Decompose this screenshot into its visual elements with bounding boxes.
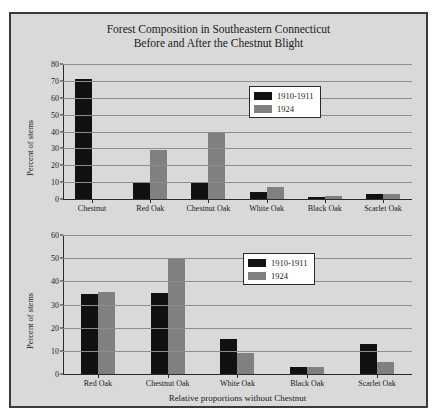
x-axis-tick-label: Black Oak — [272, 379, 342, 388]
y-axis-tick-label: 20 — [51, 161, 59, 170]
x-axis-tick-label: Scarlet Oak — [342, 379, 412, 388]
y-axis-tick-label: 30 — [51, 300, 59, 309]
bar-1910-1911 — [360, 344, 377, 374]
x-axis-tick-label: White Oak — [203, 379, 273, 388]
x-axis-tick-mark — [150, 199, 151, 203]
gridline — [63, 64, 412, 65]
y-axis-tick-label: 10 — [51, 346, 59, 355]
gridline — [63, 165, 412, 166]
x-axis-tick-label: Black Oak — [296, 204, 354, 213]
chart-panel-top: Percent of stems 01020304050607080 Chest… — [11, 58, 426, 216]
y-axis-tick-label: 40 — [51, 127, 59, 136]
bar-1924 — [150, 150, 167, 199]
y-axis-tick-label: 80 — [51, 60, 59, 69]
y-axis-tick-label: 30 — [51, 144, 59, 153]
y-axis-tick-mark — [60, 182, 63, 183]
y-axis-tick-mark — [60, 80, 63, 81]
legend-swatch-icon-1910-1911 — [254, 92, 272, 100]
x-axis-tick-mark — [92, 199, 93, 203]
legend-top: 1910-1911 1924 — [249, 86, 321, 118]
x-axis-top — [63, 199, 412, 200]
y-axis-tick-label: 70 — [51, 76, 59, 85]
gridline — [63, 182, 412, 183]
plot-area-bottom: 0102030405060 — [63, 235, 412, 375]
y-axis-label-top: Percent of stems — [25, 120, 35, 176]
x-axis-tick-label: Chestnut — [63, 204, 121, 213]
y-axis-tick-mark — [60, 374, 63, 375]
y-axis-tick-mark — [60, 131, 63, 132]
bar-1910-1911 — [133, 182, 150, 199]
x-axis-tick-mark — [267, 199, 268, 203]
x-axis-tick-mark — [377, 374, 378, 378]
gridline — [63, 98, 412, 99]
x-axis-tick-label: Scarlet Oak — [354, 204, 412, 213]
y-axis-tick-label: 60 — [51, 93, 59, 102]
legend-swatch-icon-1924 — [254, 105, 272, 113]
y-axis-tick-mark — [60, 258, 63, 259]
bar-1910-1911 — [81, 294, 98, 374]
x-axis-tick-mark — [98, 374, 99, 378]
y-axis-tick-label: 60 — [51, 231, 59, 240]
legend-item-1924: 1924 — [254, 103, 314, 114]
legend-label-1910-1911: 1910-1911 — [277, 91, 314, 101]
bar-1910-1911 — [191, 182, 208, 199]
bar-1924 — [267, 187, 284, 199]
plot-area-top: 01020304050607080 — [63, 64, 412, 200]
x-axis-tick-mark — [307, 374, 308, 378]
y-axis-tick-label: 50 — [51, 110, 59, 119]
x-axis-tick-label: White Oak — [238, 204, 296, 213]
chart-title-line-2: Before and After the Chestnut Blight — [11, 36, 426, 50]
y-axis-tick-mark — [60, 165, 63, 166]
chart-title: Forest Composition in Southeastern Conne… — [11, 22, 426, 50]
x-axis-tick-mark — [237, 374, 238, 378]
legend-label-1924: 1924 — [271, 271, 288, 281]
y-axis-tick-label: 0 — [55, 370, 59, 379]
y-axis-tick-label: 40 — [51, 277, 59, 286]
gridline — [63, 235, 412, 236]
gridline — [63, 328, 412, 329]
x-axis-tick-label: Chestnut Oak — [133, 379, 203, 388]
x-axis-tick-mark — [383, 199, 384, 203]
y-axis-tick-label: 20 — [51, 323, 59, 332]
chart-figure: Forest Composition in Southeastern Conne… — [9, 12, 428, 408]
y-axis-tick-label: 10 — [51, 178, 59, 187]
gridline — [63, 281, 412, 282]
legend-label-1910-1911: 1910-1911 — [271, 258, 308, 268]
bar-1924 — [237, 353, 254, 374]
y-axis-tick-mark — [60, 64, 63, 65]
legend-item-1910-1911: 1910-1911 — [248, 257, 308, 268]
legend-swatch-icon-1910-1911 — [248, 259, 266, 267]
legend-bottom: 1910-1911 1924 — [243, 253, 315, 285]
gridline — [63, 148, 412, 149]
bar-1910-1911 — [290, 367, 307, 374]
y-axis-tick-mark — [60, 235, 63, 236]
gridline — [63, 132, 412, 133]
bar-1924 — [168, 259, 185, 374]
x-axis-tick-label: Chestnut Oak — [179, 204, 237, 213]
y-axis-tick-mark — [60, 350, 63, 351]
gridline — [63, 115, 412, 116]
gridline — [63, 351, 412, 352]
bar-1924 — [325, 196, 342, 199]
y-axis-tick-mark — [60, 114, 63, 115]
y-axis-tick-mark — [60, 148, 63, 149]
x-axis-tick-labels-bottom: Red OakChestnut OakWhite OakBlack OakSca… — [63, 379, 412, 388]
gridline — [63, 258, 412, 259]
x-axis-tick-label: Red Oak — [63, 379, 133, 388]
chart-title-line-1: Forest Composition in Southeastern Conne… — [11, 22, 426, 36]
y-axis-tick-mark — [60, 304, 63, 305]
x-axis-tick-mark — [208, 199, 209, 203]
legend-item-1924: 1924 — [248, 270, 308, 281]
y-axis-tick-mark — [60, 327, 63, 328]
x-axis-tick-labels-top: ChestnutRed OakChestnut OakWhite OakBlac… — [63, 204, 412, 213]
gridline — [63, 305, 412, 306]
legend-label-1924: 1924 — [277, 104, 294, 114]
x-axis-tick-mark — [168, 374, 169, 378]
x-axis-tick-mark — [325, 199, 326, 203]
legend-swatch-icon-1924 — [248, 272, 266, 280]
bar-1910-1911 — [366, 194, 383, 199]
chart-panel-bottom: Percent of stems 0102030405060 Red OakCh… — [11, 229, 426, 407]
gridline — [63, 81, 412, 82]
y-axis-tick-mark — [60, 97, 63, 98]
y-axis-tick-mark — [60, 281, 63, 282]
